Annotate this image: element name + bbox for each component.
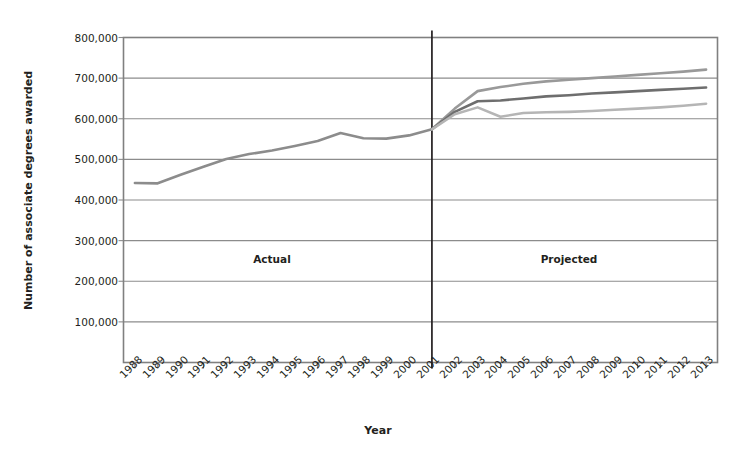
x-axis-tick-label: 2003 (460, 353, 487, 380)
x-axis-tick-label: 2009 (597, 353, 624, 380)
x-axis-tick-label: 2000 (391, 353, 418, 380)
region-label-projected: Projected (541, 253, 598, 265)
x-axis-tick-label: 2005 (505, 353, 532, 380)
x-axis-tick-label: 2006 (528, 353, 555, 380)
x-axis-tick-label: 1995 (277, 353, 304, 380)
x-axis-tick-label: 2011 (642, 353, 669, 380)
x-axis-tick-label: 2013 (688, 353, 715, 380)
x-axis-tick-label: 2007 (551, 353, 578, 380)
x-axis-tick-label: 1988 (117, 353, 144, 380)
x-axis-title-text: Year (364, 424, 391, 437)
associate-degrees-line-chart: Number of associate degrees awarded 800,… (0, 0, 756, 458)
x-axis-tick-label: 2008 (574, 353, 601, 380)
region-label-actual: Actual (253, 253, 291, 265)
x-axis-tick-label: 2001 (414, 353, 441, 380)
x-axis-tick-label: 1997 (323, 353, 350, 380)
x-axis-tick-label: 1999 (368, 353, 395, 380)
x-axis-tick-label: 2010 (620, 353, 647, 380)
x-axis-tick-label: 1992 (208, 353, 235, 380)
x-axis-tick-label: 2004 (482, 353, 509, 380)
x-axis-title: Year (0, 424, 756, 437)
x-axis-tick-label: 1996 (300, 353, 327, 380)
x-axis-tick-label: 1991 (185, 353, 212, 380)
x-axis-tick-label: 2002 (437, 353, 464, 380)
x-axis-tick-label: 1993 (231, 353, 258, 380)
x-axis-tick-label: 1989 (140, 353, 167, 380)
x-axis-tick-labels: 1988198919901991199219931994199519961997… (0, 0, 756, 458)
x-axis-tick-label: 2012 (665, 353, 692, 380)
x-axis-tick-label: 1998 (345, 353, 372, 380)
x-axis-tick-label: 1990 (163, 353, 190, 380)
x-axis-tick-label: 1994 (254, 353, 281, 380)
